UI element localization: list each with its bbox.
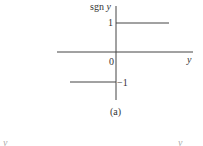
figure-caption: (a) xyxy=(110,107,121,117)
sgn-label: sgn xyxy=(90,1,104,12)
bottom-right-label: y xyxy=(178,138,182,146)
tick-label-negative: −1 xyxy=(117,78,128,88)
bottom-left-label: y xyxy=(3,138,7,146)
signum-plot xyxy=(0,0,203,146)
x-axis-label: y xyxy=(187,55,191,65)
sgn-var: y xyxy=(106,1,110,12)
origin-label: 0 xyxy=(109,57,114,67)
y-axis-title: sgn y xyxy=(90,2,111,12)
tick-label-positive: 1 xyxy=(108,18,113,28)
